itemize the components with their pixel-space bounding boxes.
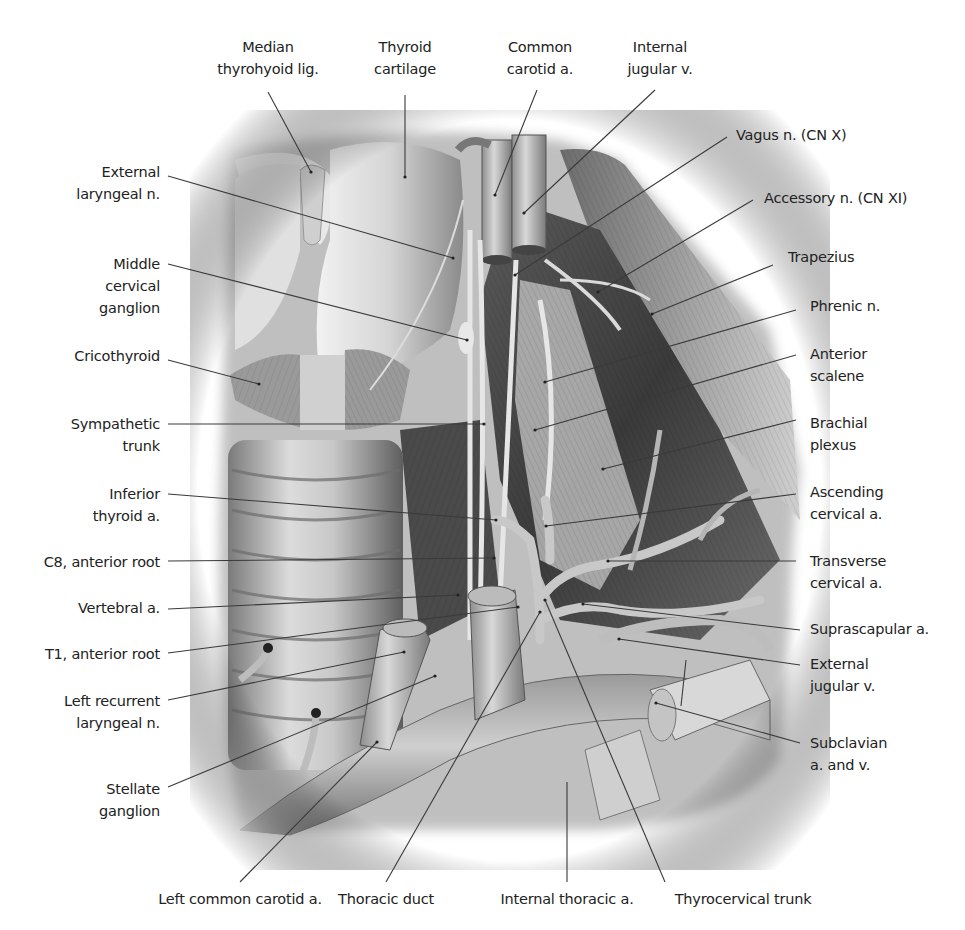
leader-c8-anterior-root xyxy=(168,558,494,561)
leader-internal-jugular-v xyxy=(524,90,655,213)
leader-vagus-n xyxy=(515,137,727,275)
leader-t1-anterior-root xyxy=(168,607,518,653)
leader-phrenic-n xyxy=(545,310,796,382)
label-accessory-n: Accessory n. (CN XI) xyxy=(764,187,907,209)
leader-anterior-scalene xyxy=(535,355,796,430)
leader-external-jugular-v-2 xyxy=(681,660,686,706)
label-cricothyroid: Cricothyroid xyxy=(20,345,160,367)
leader-accessory-n xyxy=(598,200,753,292)
leader-external-laryngeal-n xyxy=(168,176,453,258)
leader-common-carotid-a xyxy=(495,90,537,195)
label-external-laryngeal-n: External laryngeal n. xyxy=(20,161,160,205)
leader-left-common-carotid-a xyxy=(240,742,377,882)
label-phrenic-n: Phrenic n. xyxy=(810,295,880,317)
leader-inferior-thyroid-a xyxy=(168,494,496,520)
label-trapezius: Trapezius xyxy=(788,246,854,268)
label-ascending-cervical-a: Ascending cervical a. xyxy=(810,481,883,525)
anatomy-figure: Median thyrohyoid lig. Thyroid cartilage… xyxy=(0,0,965,930)
label-thoracic-duct: Thoracic duct xyxy=(326,888,446,910)
leader-cricothyroid xyxy=(168,360,259,384)
leader-thyrocervical-trunk xyxy=(545,600,665,882)
label-inferior-thyroid-a: Inferior thyroid a. xyxy=(20,483,160,527)
label-left-common-carotid-a: Left common carotid a. xyxy=(140,888,340,910)
label-common-carotid-a: Common carotid a. xyxy=(490,36,590,80)
label-t1-anterior-root: T1, anterior root xyxy=(0,643,160,665)
label-vagus-n: Vagus n. (CN X) xyxy=(736,124,846,146)
label-thyroid-cartilage: Thyroid cartilage xyxy=(355,36,455,80)
label-stellate-ganglion: Stellate ganglion xyxy=(20,778,160,822)
label-anterior-scalene: Anterior scalene xyxy=(810,343,867,387)
leader-brachial-plexus xyxy=(603,420,796,469)
label-left-recurrent-laryngeal-n: Left recurrent laryngeal n. xyxy=(20,690,160,734)
label-suprascapular-a: Suprascapular a. xyxy=(810,618,929,640)
label-thyrocervical-trunk: Thyrocervical trunk xyxy=(655,888,831,910)
leader-middle-cervical-ganglion xyxy=(168,264,467,340)
leader-ascending-cervical-a xyxy=(546,494,796,526)
leader-thoracic-duct xyxy=(386,612,540,882)
label-median-thyrohyoid-lig: Median thyrohyoid lig. xyxy=(198,36,338,80)
label-subclavian-a-and-v: Subclavian a. and v. xyxy=(810,732,887,776)
label-c8-anterior-root: C8, anterior root xyxy=(0,551,160,573)
leader-trapezius xyxy=(652,265,773,314)
leader-vertebral-a xyxy=(168,595,458,609)
leader-subclavian xyxy=(656,703,800,743)
label-internal-thoracic-a: Internal thoracic a. xyxy=(486,888,648,910)
leader-suprascapular-a xyxy=(583,604,800,630)
label-external-jugular-v: External jugular v. xyxy=(810,653,875,697)
label-internal-jugular-v: Internal jugular v. xyxy=(610,36,710,80)
leader-stellate-ganglion xyxy=(168,676,435,787)
label-middle-cervical-ganglion: Middle cervical ganglion xyxy=(20,253,160,319)
leader-left-recurrent-laryngeal-n xyxy=(168,652,404,700)
label-sympathetic-trunk: Sympathetic trunk xyxy=(20,413,160,457)
leader-external-jugular-v xyxy=(619,639,800,665)
label-transverse-cervical-a: Transverse cervical a. xyxy=(810,550,886,594)
label-brachial-plexus: Brachial plexus xyxy=(810,412,867,456)
leader-median-thyrohyoid-lig xyxy=(268,92,311,172)
label-vertebral-a: Vertebral a. xyxy=(20,597,160,619)
